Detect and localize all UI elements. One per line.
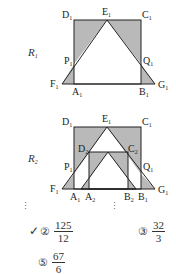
label-r2-b1: B1 [138, 191, 148, 203]
choice-number: ③ [138, 225, 148, 238]
denominator: 6 [56, 263, 62, 274]
label-b1: B1 [139, 86, 149, 98]
label-e1: E1 [102, 6, 111, 18]
label-r2-e1: E1 [102, 113, 111, 125]
label-r2-d1: D1 [62, 116, 72, 128]
label-r2-g1: G1 [158, 184, 168, 196]
label-f1: F1 [50, 78, 59, 90]
fraction: 125 12 [54, 219, 73, 244]
numerator: 32 [152, 219, 165, 232]
label-r2-p1: P1 [64, 161, 73, 173]
continuation-dots-center: ⋮ [110, 204, 114, 208]
label-b2: B2 [124, 191, 134, 203]
choice-number: ② [40, 225, 50, 238]
figure-r2 [62, 127, 155, 189]
numerator: 125 [54, 219, 73, 232]
label-p1: P1 [64, 55, 73, 67]
choice-2[interactable]: ✓ ② 125 12 [29, 219, 73, 244]
choice-3[interactable]: ③ 32 3 [138, 219, 165, 244]
label-r2-f1: F1 [50, 183, 59, 195]
label-q1: Q1 [143, 55, 153, 67]
choice-5[interactable]: ⑤ 67 6 [38, 250, 65, 274]
label-g1: G1 [158, 79, 168, 91]
label-a2: A2 [85, 191, 95, 203]
fraction: 32 3 [152, 219, 165, 244]
figure-r1 [62, 20, 155, 84]
numerator: 67 [52, 250, 65, 263]
check-mark-icon: ✓ [29, 224, 39, 239]
row-label-r2: R2 [27, 152, 38, 165]
choice-number: ⑤ [38, 256, 48, 269]
row-label-r1: R1 [27, 46, 38, 59]
label-c1: C1 [142, 9, 152, 21]
label-r2-q1: Q1 [143, 161, 153, 173]
denominator: 3 [156, 232, 162, 244]
continuation-dots-left: ⋮ [21, 204, 25, 208]
fraction: 67 6 [52, 250, 65, 274]
geometry-figure: R1 D1 E1 C1 P1 Q1 F1 G1 A1 B1 R2 D1 E1 C… [0, 0, 176, 215]
label-d1: D1 [62, 9, 72, 21]
label-a1: A1 [72, 86, 82, 98]
label-r2-c1: C1 [142, 116, 152, 128]
denominator: 12 [58, 232, 69, 244]
label-r2-a1: A1 [70, 191, 80, 203]
